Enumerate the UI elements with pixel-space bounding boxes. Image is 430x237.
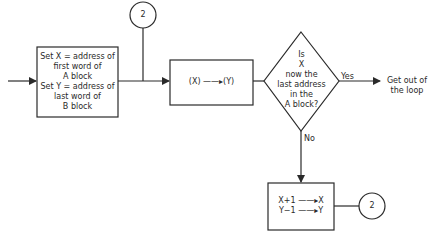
- decision-line-5: in the: [264, 90, 339, 100]
- connector-bottom-label: 2: [362, 201, 382, 211]
- init-box: Set X = address of first word of A block…: [37, 52, 118, 112]
- exit-line-1: Get out of: [384, 76, 430, 86]
- increment-box: X+1 ——▸X Y−1 ——▸Y: [268, 196, 334, 216]
- no-label: No: [304, 134, 315, 144]
- copy-box-label: (X) ——▸(Y): [170, 77, 253, 87]
- init-line-4: Set Y = address of: [37, 82, 118, 92]
- init-line-6: B block: [37, 102, 118, 112]
- init-line-1: Set X = address of: [37, 52, 118, 62]
- yes-label: Yes: [341, 72, 354, 82]
- decision-line-4: last address: [264, 80, 339, 90]
- exit-line-2: the loop: [384, 86, 430, 96]
- init-line-3: A block: [37, 72, 118, 82]
- increment-line-2: Y−1 ——▸Y: [268, 206, 334, 216]
- decision-text: Is X now the last address in the A block…: [264, 50, 339, 110]
- connector-top-label: 2: [133, 10, 153, 20]
- decision-line-3: now the: [264, 70, 339, 80]
- exit-text: Get out of the loop: [384, 76, 430, 96]
- init-line-5: last word of: [37, 92, 118, 102]
- increment-line-1: X+1 ——▸X: [268, 196, 334, 206]
- decision-line-1: Is: [264, 50, 339, 60]
- decision-line-6: A block?: [264, 100, 339, 110]
- init-line-2: first word of: [37, 62, 118, 72]
- decision-line-2: X: [264, 60, 339, 70]
